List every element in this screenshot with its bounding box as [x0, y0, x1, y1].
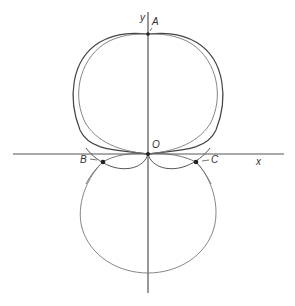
point-C-label: C	[211, 155, 218, 165]
point-B-marker	[101, 160, 106, 165]
point-B-label: B	[80, 155, 87, 165]
B-leader-line	[90, 159, 97, 160]
point-A-label: A	[152, 17, 159, 27]
C-leader-line	[202, 160, 209, 161]
A-leader-line	[150, 28, 152, 31]
x-axis-label: x	[256, 157, 261, 167]
left-small-loop	[86, 148, 148, 169]
point-O-label: O	[152, 140, 160, 150]
y-axis-label: y	[140, 13, 145, 23]
point-O-marker	[146, 152, 150, 156]
polar-curves-diagram	[0, 0, 295, 306]
point-C-marker	[194, 160, 199, 165]
right-small-loop	[148, 148, 210, 169]
point-A-marker	[146, 32, 150, 36]
